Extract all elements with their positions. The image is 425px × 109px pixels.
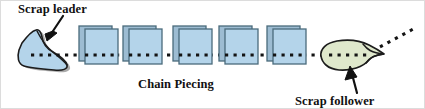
fabric-front-layer	[129, 29, 162, 64]
fabric-square-2	[123, 26, 162, 64]
scrap-follower-label: Scrap follower	[295, 94, 375, 109]
diagram-canvas	[1, 1, 425, 109]
scrap-leader-shape	[18, 30, 70, 72]
chain-piecing-figure: Scrap leader Chain Piecing Scrap followe…	[0, 0, 425, 109]
arrow-head	[45, 31, 57, 41]
fabric-front-layer	[179, 29, 212, 64]
fabric-square-1	[79, 26, 118, 64]
scrap-leader-label: Scrap leader	[18, 2, 87, 17]
fabric-square-5	[267, 26, 306, 64]
fabric-square-3	[173, 26, 212, 64]
scrap-leader-arrow	[45, 16, 63, 41]
chain-piecing-label: Chain Piecing	[138, 77, 214, 92]
fabric-square-4	[219, 26, 258, 64]
fabric-front-layer	[85, 29, 118, 64]
fabric-front-layer	[225, 29, 258, 64]
fabric-front-layer	[273, 29, 306, 64]
